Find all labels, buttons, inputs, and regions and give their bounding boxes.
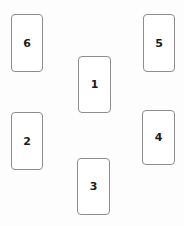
card-2[interactable]: 2 (11, 112, 43, 170)
card-label: 5 (155, 38, 163, 49)
card-3[interactable]: 3 (77, 158, 110, 215)
card-5[interactable]: 5 (143, 14, 175, 72)
card-4[interactable]: 4 (142, 110, 175, 165)
card-label: 3 (90, 181, 98, 192)
card-label: 4 (155, 132, 163, 143)
card-label: 6 (23, 38, 31, 49)
card-label: 2 (23, 136, 31, 147)
card-1[interactable]: 1 (78, 56, 111, 113)
card-label: 1 (91, 79, 99, 90)
card-6[interactable]: 6 (11, 14, 43, 72)
card-layout-canvas: 6 5 1 2 4 3 (0, 0, 184, 226)
